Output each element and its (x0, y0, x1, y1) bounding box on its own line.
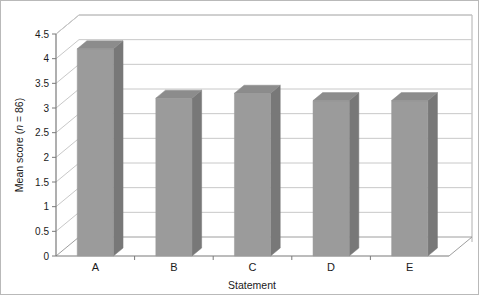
bar-E (392, 93, 438, 256)
y-tick-label: 1 (43, 201, 49, 212)
bar-side-face (271, 85, 281, 256)
bar-A (77, 41, 123, 256)
y-axis: 00.511.522.533.544.5 (35, 29, 56, 262)
x-category-label-D: D (327, 261, 335, 273)
y-axis-title-group: Mean score (n = 86) (13, 98, 25, 192)
bar-B (156, 90, 202, 256)
y-tick-label: 3 (43, 103, 49, 114)
y-tick-label: 2 (43, 152, 49, 163)
bar-side-face (349, 93, 359, 256)
y-tick-label: 0 (43, 251, 49, 262)
bar-front-face (392, 101, 428, 256)
bar-D (313, 93, 359, 256)
y-tick-label: 4.5 (35, 29, 49, 40)
x-category-label-B: B (170, 261, 177, 273)
y-axis-title: Mean score (n = 86) (13, 98, 25, 192)
bar-front-face (156, 98, 192, 256)
y-axis-title-suffix: = 86) (13, 98, 25, 125)
y-tick-label: 1.5 (35, 177, 49, 188)
y-axis-ticks: 00.511.522.533.544.5 (35, 29, 56, 262)
bar-front-face (234, 93, 270, 256)
bar-chart-figure: 00.511.522.533.544.5 ABCDE Statement Mea… (0, 0, 479, 295)
chart-canvas: 00.511.522.533.544.5 ABCDE Statement Mea… (1, 1, 479, 295)
x-category-label-E: E (406, 261, 413, 273)
bar-front-face (77, 49, 113, 256)
x-category-label-A: A (92, 261, 100, 273)
x-axis-title: Statement (228, 279, 276, 291)
bar-front-face (313, 101, 349, 256)
bar-side-face (428, 93, 438, 256)
bar-side-face (113, 41, 123, 256)
y-tick-label: 2.5 (35, 127, 49, 138)
bar-side-face (192, 90, 202, 256)
x-axis-category-labels: ABCDE (92, 261, 414, 273)
y-tick-label: 3.5 (35, 78, 49, 89)
x-category-label-C: C (249, 261, 257, 273)
y-axis-title-prefix: Mean score ( (13, 130, 25, 192)
bar-C (234, 85, 280, 256)
y-tick-label: 0.5 (35, 226, 49, 237)
y-tick-label: 4 (43, 53, 49, 64)
x-axis-ticks (135, 256, 371, 260)
